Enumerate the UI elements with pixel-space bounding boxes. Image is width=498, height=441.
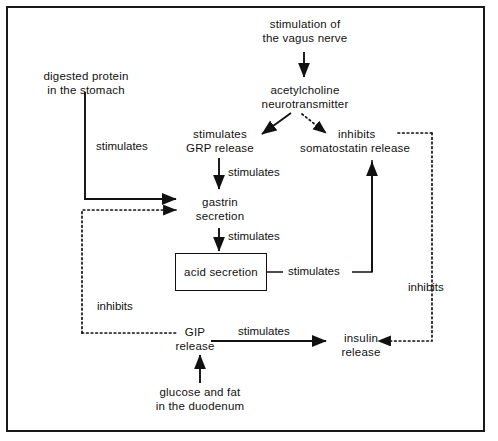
edge-label-protein-gastrin: stimulates — [96, 140, 148, 154]
edge-somatostatin-insulin-dotted — [378, 133, 432, 341]
node-acid-secretion-label: acid secretion — [184, 266, 258, 278]
edge-label-gastrin-acid: stimulates — [228, 230, 280, 244]
node-glucose-duodenum-line1: glucose and fat — [137, 386, 263, 400]
node-digested-protein-line1: digested protein — [26, 70, 146, 84]
node-gastrin-secretion: gastrin secretion — [181, 196, 259, 223]
node-acetylcholine-line1: acetylcholine — [239, 84, 371, 98]
node-vagus-line1: stimulation of — [240, 18, 370, 32]
edge-label-gip-insulin: stimulates — [238, 325, 290, 339]
edge-label-left-inhibits: inhibits — [97, 300, 133, 314]
diagram-page: stimulation of the vagus nerve acetylcho… — [0, 0, 498, 441]
node-somatostatin-line1: inhibits — [300, 128, 448, 142]
edge-label-right-inhibits: inhibits — [408, 281, 444, 295]
node-acetylcholine-line2: neurotransmitter — [239, 98, 371, 112]
node-vagus-line2: the vagus nerve — [240, 32, 370, 46]
node-vagus: stimulation of the vagus nerve — [240, 18, 370, 45]
node-somatostatin: inhibits somatostatin release — [300, 128, 448, 155]
node-gip-release: GIP release — [167, 326, 223, 353]
node-glucose-duodenum-line2: in the duodenum — [137, 400, 263, 414]
node-grp-release-line2: GRP release — [170, 142, 270, 156]
node-gip-release-line2: release — [167, 340, 223, 354]
node-gip-release-line1: GIP — [167, 326, 223, 340]
node-insulin-release-line2: release — [330, 346, 392, 360]
node-digested-protein-line2: in the stomach — [26, 84, 146, 98]
node-insulin-release-line1: insulin — [330, 332, 392, 346]
node-digested-protein: digested protein in the stomach — [26, 70, 146, 97]
node-grp-release-line1: stimulates — [170, 128, 270, 142]
edge-somatostatin-gastrin-dotted — [82, 210, 176, 333]
node-somatostatin-line2: somatostatin release — [300, 142, 448, 156]
node-glucose-duodenum: glucose and fat in the duodenum — [137, 386, 263, 413]
node-acetylcholine: acetylcholine neurotransmitter — [239, 84, 371, 111]
node-grp-release: stimulates GRP release — [170, 128, 270, 155]
node-acid-secretion: acid secretion — [175, 253, 267, 291]
edge-acid-somatostatin-2 — [352, 160, 372, 272]
node-gastrin-secretion-line2: secretion — [181, 210, 259, 224]
edge-label-grp-gastrin: stimulates — [228, 166, 280, 180]
edge-label-acid-somatostatin: stimulates — [288, 265, 340, 279]
node-insulin-release: insulin release — [330, 332, 392, 359]
node-gastrin-secretion-line1: gastrin — [181, 196, 259, 210]
